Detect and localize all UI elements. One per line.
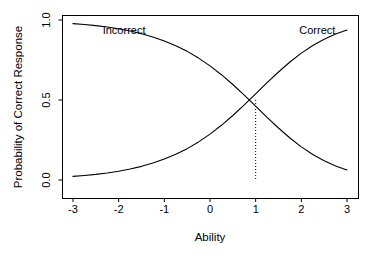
x-tick-label--3: -3 [68,203,78,215]
x-tick-label--1: -1 [159,203,169,215]
x-tick-label-0: 0 [207,203,213,215]
annotation-incorrect: Incorrect [103,24,146,36]
y-tick-label-0-5: 0.5 [40,92,52,107]
annotation-correct: Correct [299,24,335,36]
x-axis-title: Ability [195,231,226,243]
x-tick-label--2: -2 [114,203,124,215]
x-tick-label-1: 1 [253,203,259,215]
item-characteristic-curve-figure: -3 -2 -1 0 1 2 3 0.0 0.5 1.0 Ability Pro… [0,0,378,256]
y-axis-title: Probability of Correct Response [12,26,24,188]
chart-canvas: -3 -2 -1 0 1 2 3 0.0 0.5 1.0 Ability Pro… [0,0,378,256]
y-tick-label-0-0: 0.0 [40,172,52,187]
x-tick-label-3: 3 [344,203,350,215]
y-tick-label-1-0: 1.0 [40,12,52,27]
figure-background [0,0,378,256]
x-tick-label-2: 2 [298,203,304,215]
